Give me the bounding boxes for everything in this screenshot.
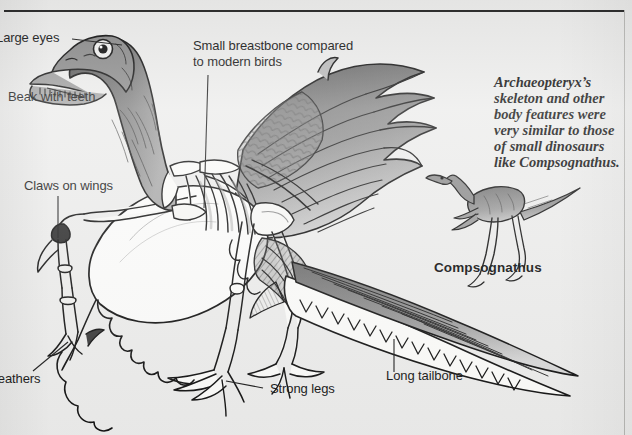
caption-line-6: like Compsognathus. (494, 154, 620, 171)
caption-line-2: skeleton and other (494, 90, 604, 107)
figure-canvas: Large eyes Beak with teeth Claws on wing… (0, 0, 632, 435)
leader-feathers (33, 342, 68, 371)
caption-line-3: body features were (494, 106, 606, 123)
leader-strong-legs (226, 381, 263, 388)
callout-small-breastbone-line2: to modern birds (193, 54, 282, 69)
caption-line-1: Archaeopteryx’s (494, 74, 591, 91)
caption-line-5: of small dinosaurs (494, 138, 604, 155)
leader-large-eyes (72, 39, 122, 45)
callout-claws-on-wings: Claws on wings (24, 178, 113, 193)
callout-large-eyes: Large eyes (0, 30, 59, 45)
callout-feathers: Feathers (0, 371, 41, 386)
frame-top-rule (4, 10, 625, 12)
callout-small-breastbone-line1: Small breastbone compared (193, 38, 353, 53)
caption-line-4: very similar to those (494, 122, 614, 139)
callout-beak-with-teeth: Beak with teeth (8, 89, 95, 104)
callout-leader-lines (0, 0, 632, 435)
frame-right-rule (624, 10, 625, 435)
leader-small-breastbone (204, 75, 208, 208)
callout-long-tailbone: Long tailbone (386, 368, 463, 383)
inset-species-label: Compsognathus (434, 260, 542, 275)
callout-strong-legs: Strong legs (270, 381, 335, 396)
